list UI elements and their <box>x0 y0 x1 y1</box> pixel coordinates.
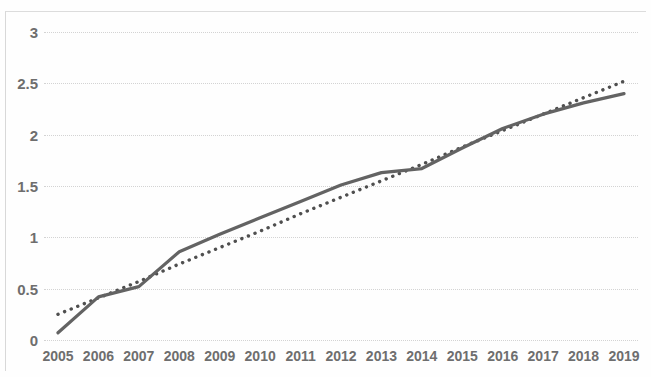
plot-area <box>44 32 638 340</box>
line-chart: 00.511.522.53 20052006200720082009201020… <box>0 0 651 377</box>
x-axis-tick-label: 2013 <box>366 348 397 364</box>
x-axis-tick-label: 2009 <box>204 348 235 364</box>
x-axis-tick-label: 2015 <box>447 348 478 364</box>
y-axis-tick-label: 2 <box>0 126 38 143</box>
y-axis-tick-label: 0.5 <box>0 280 38 297</box>
x-axis-tick-label: 2006 <box>83 348 114 364</box>
x-axis-tick-label: 2019 <box>608 348 639 364</box>
x-axis-tick-label: 2016 <box>487 348 518 364</box>
x-axis-tick-label: 2018 <box>568 348 599 364</box>
y-axis-tick-label: 3 <box>0 24 38 41</box>
y-axis-tick-label: 0 <box>0 332 38 349</box>
y-axis-tick-label: 1.5 <box>0 178 38 195</box>
series-layer <box>44 32 638 340</box>
y-axis-tick-label: 1 <box>0 229 38 246</box>
x-axis-tick-label: 2005 <box>42 348 73 364</box>
x-axis-tick-label: 2017 <box>528 348 559 364</box>
x-axis-tick-label: 2011 <box>285 348 315 364</box>
y-axis-tick-label: 2.5 <box>0 75 38 92</box>
gridline <box>44 340 638 341</box>
x-axis-tick-label: 2014 <box>406 348 437 364</box>
y-axis: 00.511.522.53 <box>0 32 38 340</box>
x-axis-tick-label: 2007 <box>123 348 154 364</box>
x-axis-tick-label: 2012 <box>325 348 356 364</box>
x-axis-tick-label: 2010 <box>245 348 276 364</box>
x-axis: 2005200620072008200920102011201220132014… <box>44 348 638 372</box>
data-series-line <box>58 94 624 333</box>
x-axis-tick-label: 2008 <box>164 348 195 364</box>
